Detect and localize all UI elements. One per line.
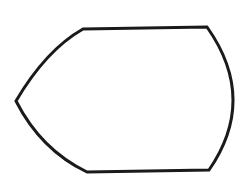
shape-svg — [0, 0, 243, 187]
diagram-canvas — [0, 0, 243, 187]
shield-shape-outline — [16, 27, 233, 172]
